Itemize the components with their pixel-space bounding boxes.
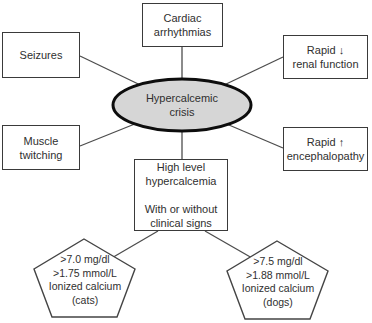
node-cardiac-arrhythmias: Cardiac arrhythmias (142, 3, 223, 47)
node-rapid-decreased-renal-function: Rapid ↓ renal function (283, 35, 368, 79)
node-rapid-increased-encephalopathy: Rapid ↑ encephalopathy (283, 127, 368, 171)
node-high-level-label: High level hypercalcemia With or without… (145, 160, 218, 230)
node-cardiac-arrhythmias-label: Cardiac arrhythmias (154, 11, 211, 39)
node-muscle-twitching-label: Muscle twitching (20, 134, 63, 162)
node-muscle-twitching: Muscle twitching (2, 125, 80, 170)
node-seizures: Seizures (2, 32, 80, 78)
node-seizures-label: Seizures (20, 48, 63, 62)
pentagon-cats (34, 239, 135, 317)
node-high-level-hypercalcemia: High level hypercalcemia With or without… (134, 159, 228, 231)
center-ellipse (113, 79, 251, 131)
hypercalcemic-crisis-diagram: Cardiac arrhythmias Seizures Rapid ↓ ren… (0, 0, 372, 323)
node-encephalopathy-label: Rapid ↑ encephalopathy (287, 135, 365, 163)
node-renal-label: Rapid ↓ renal function (292, 43, 358, 71)
